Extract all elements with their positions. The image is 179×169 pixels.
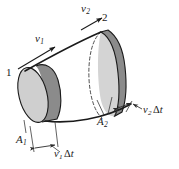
v1dt-ext-right xyxy=(55,122,58,147)
area-1-leader xyxy=(24,120,26,133)
label-area-1: A1 xyxy=(16,134,27,147)
velocity-arrow-2 xyxy=(81,18,102,30)
v2-arrow-line xyxy=(81,18,102,30)
v1dt-ext-left xyxy=(30,126,34,152)
label-area-2: A2 xyxy=(97,116,108,129)
label-length-1: v1Δt xyxy=(54,149,74,161)
label-v1: v1 xyxy=(35,33,44,46)
diagram-canvas xyxy=(0,0,179,169)
label-v2: v2 xyxy=(81,3,90,16)
label-point-1: 1 xyxy=(6,67,12,78)
fluid-flow-diagram: v2 2 v1 1 A1 A2 v1Δt v2Δt xyxy=(0,0,179,169)
slab-1 xyxy=(13,64,61,125)
v2dt-leader xyxy=(133,104,142,109)
label-length-2: v2Δt xyxy=(143,105,163,117)
label-point-2: 2 xyxy=(102,12,108,23)
